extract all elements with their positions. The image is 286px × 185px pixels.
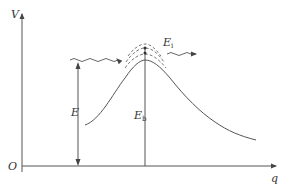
x-axis: q O (8, 160, 278, 185)
potential-curve (85, 60, 256, 140)
y-axis-label: V (11, 8, 20, 21)
origin-label: O (8, 160, 17, 173)
incident-energy-arrow: E (70, 62, 81, 166)
barrier-height-line: Eb (133, 47, 147, 167)
incident-wave-arrow (70, 59, 118, 62)
transmitted-wave-arrow (167, 53, 196, 56)
barrier-diagram: V q O Eb E Ei (0, 0, 286, 185)
x-axis-label: q (271, 172, 278, 185)
tunneling-level-label: Ei (162, 36, 174, 50)
incident-energy-label: E (70, 106, 79, 119)
y-axis: V (11, 8, 22, 172)
